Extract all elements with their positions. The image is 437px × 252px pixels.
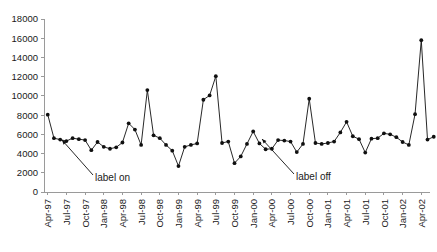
y-tick-label: 0 (33, 186, 38, 197)
data-point-marker (164, 143, 168, 147)
data-point-marker (102, 145, 106, 149)
data-series (46, 38, 436, 168)
x-tick-label: Apr-97 (42, 199, 53, 228)
x-tick-label: Apr-02 (416, 199, 427, 228)
data-point-marker (226, 140, 230, 144)
x-tick-label: Jan-02 (397, 199, 408, 228)
data-point-marker (289, 140, 293, 144)
data-point-marker (177, 164, 181, 168)
annotation-label-label-off: label off (296, 171, 331, 182)
data-point-marker (345, 120, 349, 124)
x-tick-label: Jul-98 (136, 199, 147, 225)
data-point-marker (201, 98, 205, 102)
y-tick-label: 12000 (12, 71, 38, 82)
data-point-marker (145, 88, 149, 92)
data-point-marker (195, 142, 199, 146)
data-point-marker (89, 148, 93, 152)
y-tick-label: 16000 (12, 33, 38, 44)
data-point-marker (332, 140, 336, 144)
data-point-marker (71, 136, 75, 140)
x-tick-label: Oct-99 (229, 199, 240, 228)
x-tick-label: Oct-01 (379, 199, 390, 228)
data-point-marker (258, 142, 262, 146)
data-point-marker (245, 142, 249, 146)
x-tick-label: Jul-01 (360, 199, 371, 225)
data-point-marker (351, 134, 355, 138)
data-point-marker (183, 145, 187, 149)
x-tick-label: Jul-00 (285, 199, 296, 225)
data-point-marker (326, 141, 330, 145)
data-point-marker (401, 140, 405, 144)
x-tick-label: Jan-00 (248, 199, 259, 228)
data-point-marker (282, 139, 286, 143)
data-point-marker (394, 135, 398, 139)
data-point-marker (208, 94, 212, 98)
annotation-leader-line (262, 139, 294, 174)
data-point-marker (264, 147, 268, 151)
data-point-marker (276, 138, 280, 142)
data-point-marker (388, 132, 392, 136)
data-point-marker (108, 147, 112, 151)
data-point-marker (83, 138, 87, 142)
data-point-marker (139, 143, 143, 147)
data-point-marker (307, 97, 311, 101)
y-tick-label: 18000 (12, 13, 38, 24)
y-axis: 0200040006000800010000120001400016000180… (12, 13, 44, 197)
data-point-marker (77, 137, 81, 141)
data-point-marker (233, 161, 237, 165)
annotation-label-label-on: label on (95, 172, 130, 183)
data-point-marker (189, 143, 193, 147)
data-point-marker (320, 142, 324, 146)
data-point-marker (295, 150, 299, 154)
data-point-marker (158, 136, 162, 140)
x-tick-label: Apr-98 (117, 199, 128, 228)
chart-container: 0200040006000800010000120001400016000180… (0, 0, 437, 252)
data-point-marker (426, 138, 430, 142)
data-point-marker (214, 74, 218, 78)
data-point-marker (370, 137, 374, 141)
data-point-marker (46, 113, 50, 117)
x-tick-label: Apr-99 (192, 199, 203, 228)
x-tick-label: Jul-97 (61, 199, 72, 225)
data-point-marker (314, 141, 318, 145)
x-tick-label: Apr-00 (266, 199, 277, 228)
x-tick-label: Apr-01 (341, 199, 352, 228)
y-tick-label: 14000 (12, 52, 38, 63)
y-tick-label: 10000 (12, 90, 38, 101)
x-axis: Apr-97Jul-97Oct-97Jan-98Apr-98Jul-98Oct-… (42, 192, 430, 228)
data-point-marker (363, 151, 367, 155)
data-point-marker (338, 131, 342, 135)
data-point-marker (152, 133, 156, 137)
y-tick-label: 4000 (17, 148, 38, 159)
x-tick-label: Jan-98 (98, 199, 109, 228)
data-point-marker (382, 131, 386, 135)
data-point-marker (114, 145, 118, 149)
x-tick-label: Oct-00 (304, 199, 315, 228)
data-point-marker (239, 155, 243, 159)
data-point-marker (251, 130, 255, 134)
data-point-marker (52, 136, 56, 140)
x-tick-label: Oct-98 (154, 199, 165, 228)
x-tick-label: Jan-01 (322, 199, 333, 228)
data-point-marker (170, 149, 174, 153)
y-tick-label: 8000 (17, 110, 38, 121)
data-point-marker (96, 140, 100, 144)
data-point-marker (357, 137, 361, 141)
data-point-marker (58, 138, 62, 142)
time-series-chart: 0200040006000800010000120001400016000180… (0, 0, 437, 252)
x-tick-label: Oct-97 (80, 199, 91, 228)
data-point-marker (301, 142, 305, 146)
y-tick-label: 6000 (17, 129, 38, 140)
data-point-marker (432, 135, 436, 139)
data-point-marker (133, 128, 137, 132)
x-tick-label: Jul-99 (210, 199, 221, 225)
data-point-marker (413, 112, 417, 116)
data-point-marker (376, 136, 380, 140)
data-point-marker (127, 121, 131, 125)
data-point-marker (419, 38, 423, 42)
data-point-marker (121, 141, 125, 145)
y-tick-label: 2000 (17, 167, 38, 178)
data-point-marker (407, 143, 411, 147)
data-point-marker (220, 141, 224, 145)
x-tick-label: Jan-99 (173, 199, 184, 228)
